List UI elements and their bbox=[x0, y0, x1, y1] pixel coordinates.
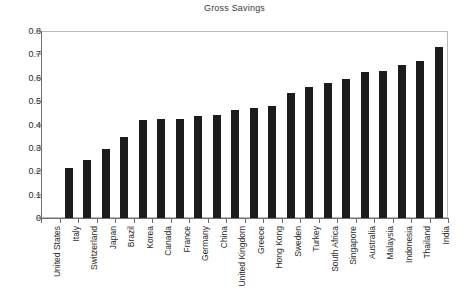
bar bbox=[65, 168, 73, 218]
x-axis-tick-mark bbox=[300, 218, 301, 223]
x-axis-tick-mark bbox=[208, 218, 209, 223]
bar bbox=[398, 65, 406, 218]
bar bbox=[102, 149, 110, 218]
x-axis-tick-label: Germany bbox=[201, 226, 210, 261]
chart-title: Gross Savings bbox=[0, 3, 469, 13]
bar bbox=[324, 83, 332, 218]
x-axis-tick-label: Hong Kong bbox=[275, 226, 284, 269]
bar bbox=[416, 61, 424, 218]
x-axis-tick-mark bbox=[226, 218, 227, 223]
x-axis-tick-label: Japan bbox=[109, 226, 118, 249]
x-axis-tick-mark bbox=[448, 218, 449, 223]
bar bbox=[213, 115, 221, 218]
x-axis-tick-mark bbox=[245, 218, 246, 223]
bar bbox=[361, 72, 369, 218]
bar bbox=[287, 93, 295, 218]
x-axis-tick-label: Greece bbox=[257, 226, 266, 254]
x-axis-tick-mark bbox=[115, 218, 116, 223]
y-axis-line bbox=[41, 31, 42, 219]
bar bbox=[342, 79, 350, 218]
x-axis-tick-label: Thailand bbox=[423, 226, 432, 259]
x-axis-tick-mark bbox=[430, 218, 431, 223]
bar bbox=[379, 71, 387, 218]
x-axis-tick-mark bbox=[152, 218, 153, 223]
x-axis-tick-label: Turkey bbox=[312, 226, 321, 252]
x-axis-tick-mark bbox=[356, 218, 357, 223]
y-axis: 00.10.20.30.40.50.60.70.8 bbox=[0, 0, 41, 305]
x-axis-tick-mark bbox=[411, 218, 412, 223]
gross-savings-bar-chart: Gross Savings 00.10.20.30.40.50.60.70.8 … bbox=[0, 0, 469, 305]
x-axis-tick-label: Brazil bbox=[127, 226, 136, 247]
x-axis-tick-label: South Africa bbox=[331, 226, 340, 272]
x-axis-tick-label: Indonesia bbox=[405, 226, 414, 263]
x-axis-tick-mark bbox=[41, 218, 42, 223]
x-axis-tick-label: China bbox=[220, 226, 229, 248]
x-axis-tick-label: Canada bbox=[164, 226, 173, 256]
x-axis-tick-mark bbox=[282, 218, 283, 223]
x-axis-tick-mark bbox=[97, 218, 98, 223]
x-axis-tick-mark bbox=[189, 218, 190, 223]
bar bbox=[139, 120, 147, 218]
x-axis-tick-mark bbox=[393, 218, 394, 223]
bar bbox=[231, 110, 239, 218]
x-axis-tick-label: United Kingdom bbox=[238, 226, 247, 286]
x-axis-tick-mark bbox=[60, 218, 61, 223]
bar bbox=[157, 119, 165, 218]
x-axis-tick-label: Korea bbox=[146, 226, 155, 249]
x-axis-tick-label: India bbox=[442, 226, 451, 244]
bar bbox=[194, 116, 202, 218]
x-axis-tick-mark bbox=[374, 218, 375, 223]
bar bbox=[176, 119, 184, 218]
bar bbox=[305, 87, 313, 218]
x-axis-tick-label: Switzerland bbox=[90, 226, 99, 270]
x-axis-tick-mark bbox=[78, 218, 79, 223]
x-axis-tick-mark bbox=[263, 218, 264, 223]
bar bbox=[250, 108, 258, 218]
x-axis-tick-label: Italy bbox=[72, 226, 81, 242]
x-axis-tick-label: Malaysia bbox=[386, 226, 395, 260]
x-axis-tick-mark bbox=[171, 218, 172, 223]
x-axis-tick-label: Sweden bbox=[294, 226, 303, 257]
x-axis-tick-label: Singapore bbox=[349, 226, 358, 265]
x-axis-tick-label: France bbox=[183, 226, 192, 252]
x-axis-tick-label: Australia bbox=[368, 226, 377, 259]
bar bbox=[83, 160, 91, 218]
x-axis-tick-mark bbox=[134, 218, 135, 223]
x-axis-tick-mark bbox=[337, 218, 338, 223]
bar bbox=[120, 137, 128, 218]
bar bbox=[435, 47, 443, 218]
x-axis-tick-label: United States bbox=[53, 226, 62, 277]
x-axis-tick-mark bbox=[319, 218, 320, 223]
bar bbox=[268, 106, 276, 218]
